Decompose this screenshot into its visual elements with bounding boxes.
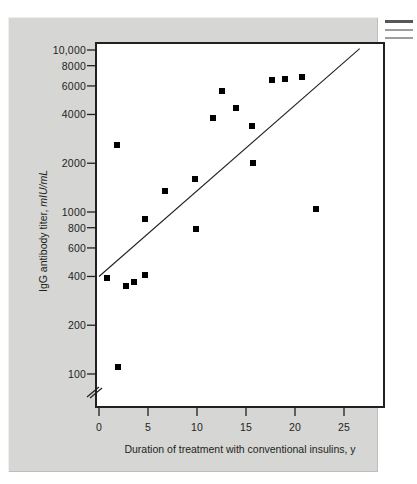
y-tick-label: 10,000	[30, 44, 86, 56]
data-point-marker	[233, 105, 239, 111]
caption-stub	[385, 20, 415, 45]
y-tick-label: 100	[30, 368, 86, 380]
data-point-marker	[219, 88, 225, 94]
plot-area	[95, 42, 385, 408]
caption-stub-line-2	[385, 29, 413, 31]
data-point-marker	[123, 283, 129, 289]
x-tick-label: 0	[96, 421, 102, 433]
x-tick-label: 20	[289, 421, 301, 433]
data-point-marker	[313, 206, 319, 212]
data-point-marker	[192, 176, 198, 182]
data-point-marker	[162, 188, 168, 194]
x-axis-title: Duration of treatment with conventional …	[95, 443, 385, 455]
data-point-marker	[115, 364, 121, 370]
data-point-marker	[299, 74, 305, 80]
figure-root: 1002004006008001000200040006000800010,00…	[0, 0, 417, 484]
data-point-marker	[193, 226, 199, 232]
data-point-marker	[142, 272, 148, 278]
data-point-marker	[210, 115, 216, 121]
data-point-marker	[142, 216, 148, 222]
y-tick-label: 8000	[30, 60, 86, 72]
y-axis-title-unit: mIU/mL	[37, 170, 49, 207]
data-point-marker	[282, 76, 288, 82]
y-tick-label: 6000	[30, 80, 86, 92]
data-point-marker	[269, 77, 275, 83]
x-tick-label: 10	[191, 421, 203, 433]
caption-stub-line-1	[385, 20, 413, 23]
x-tick-label: 15	[240, 421, 252, 433]
data-point-marker	[250, 160, 256, 166]
data-point-marker	[131, 279, 137, 285]
y-axis-title-text: IgG antibody titer,	[37, 207, 49, 292]
data-point-marker	[104, 275, 110, 281]
x-tick-label: 25	[338, 421, 350, 433]
data-point-marker	[114, 142, 120, 148]
x-tick-label: 5	[145, 421, 151, 433]
data-point-marker	[249, 123, 255, 129]
y-tick-label: 4000	[30, 108, 86, 120]
y-axis-title: IgG antibody titer, mIU/mL	[37, 136, 49, 326]
caption-stub-line-3	[385, 37, 413, 39]
